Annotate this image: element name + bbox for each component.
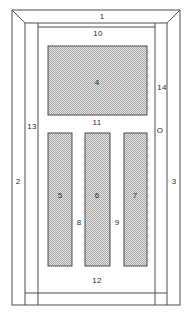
reference-label-3-right-stile: 3 [172,178,177,186]
reference-label-13-left-edge: 13 [27,123,37,131]
reference-label-8-left-muntin: 8 [77,219,82,227]
reference-label-6-center-panel: 6 [95,192,100,200]
reference-label-2-left-stile: 2 [16,178,21,186]
patent-figure-door-assembly: 1 10 4 14 11 13 O 2 3 5 6 7 8 9 12 [0,0,192,315]
door-assembly-drawing [0,0,192,315]
reference-label-1-top-rail: 1 [100,13,105,21]
reference-label-5-left-panel: 5 [58,192,63,200]
reference-label-7-right-panel: 7 [133,192,138,200]
reference-label-14-right-edge: 14 [157,84,167,92]
reference-label-4-upper-panel: 4 [95,79,100,87]
reference-label-0-right-edge: O [157,127,164,135]
reference-label-9-right-muntin: 9 [115,219,120,227]
reference-label-11-mid-rail: 11 [93,119,102,127]
reference-label-10-upper-rail: 10 [93,30,103,38]
reference-label-12-bottom-rail: 12 [92,277,102,285]
